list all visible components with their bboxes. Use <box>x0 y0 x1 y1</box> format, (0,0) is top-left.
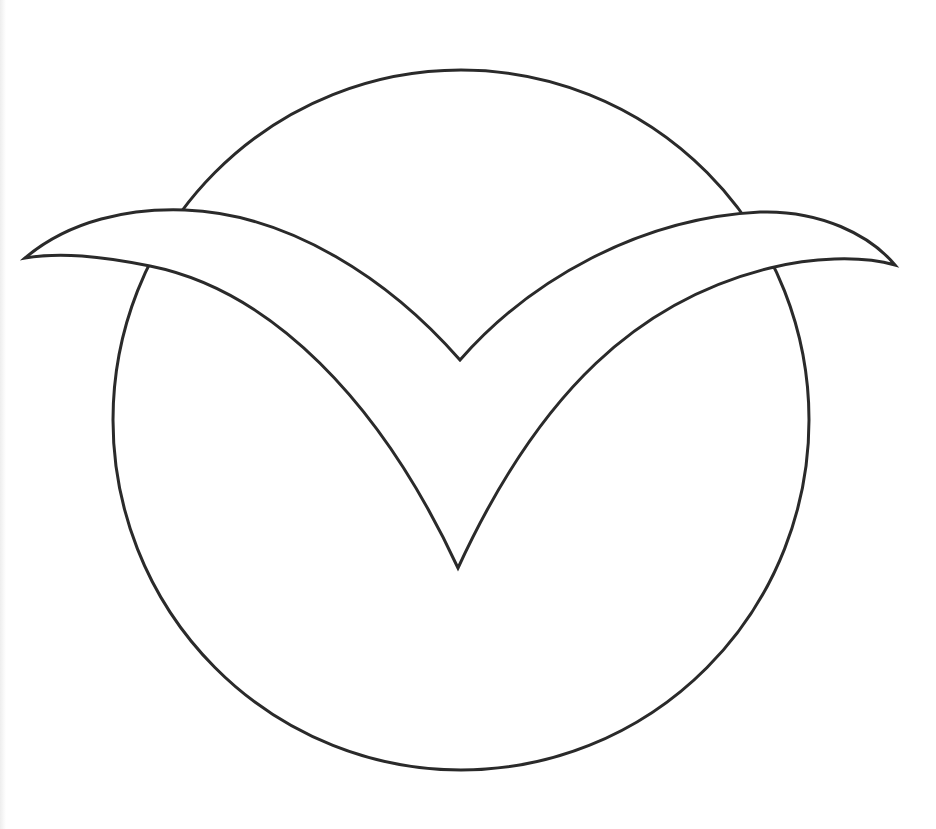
drawing-canvas <box>0 0 936 829</box>
gull-circle-logo <box>0 0 936 829</box>
